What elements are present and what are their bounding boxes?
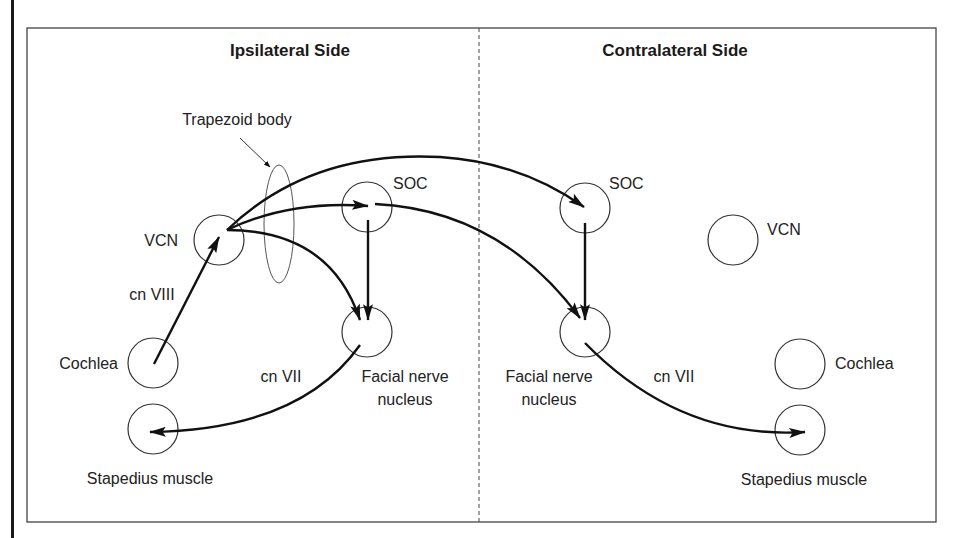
contra-cochlea-label: Cochlea — [835, 355, 894, 372]
vcn-to-ipsi-facial-arrow — [227, 230, 360, 320]
vcn-to-ipsi-soc-arrow — [227, 205, 368, 230]
trapezoid-body-ellipse — [264, 165, 294, 283]
ipsi-cn-vii-arrow — [150, 345, 360, 432]
diagram-frame — [27, 28, 936, 522]
cn-viii-label: cn VIII — [129, 286, 174, 303]
ipsi-cn-vii-label: cn VII — [261, 368, 302, 385]
contra-stapedius-node — [775, 405, 825, 455]
contra-facial-label-1: Facial nerve — [505, 368, 592, 385]
ipsi-facial-label-2: nucleus — [377, 391, 432, 408]
contra-vcn-label: VCN — [767, 221, 801, 238]
ipsi-facial-label-1: Facial nerve — [361, 368, 448, 385]
ipsi-stapedius-node — [128, 404, 178, 454]
trapezoid-pointer — [240, 138, 270, 167]
ipsi-soc-label: SOC — [393, 175, 428, 192]
trapezoid-body-label: Trapezoid body — [182, 111, 292, 128]
ipsi-cochlea-label: Cochlea — [59, 355, 118, 372]
contra-cn-vii-label: cn VII — [654, 368, 695, 385]
contralateral-title: Contralateral Side — [602, 41, 748, 60]
ipsi-stapedius-label: Stapedius muscle — [87, 470, 213, 487]
ipsilateral-title: Ipsilateral Side — [230, 41, 350, 60]
contra-soc-label: SOC — [609, 175, 644, 192]
contra-vcn-node — [708, 215, 758, 265]
ipsi-cochlea-node — [128, 338, 178, 388]
contra-stapedius-label: Stapedius muscle — [741, 471, 867, 488]
ipsi-vcn-label: VCN — [144, 232, 178, 249]
contra-facial-label-2: nucleus — [521, 391, 576, 408]
contra-cochlea-node — [775, 339, 825, 389]
contra-cn-vii-arrow — [585, 343, 805, 433]
vcn-to-contra-soc-arrow — [227, 156, 584, 230]
ipsi-soc-to-contra-facial-arrow — [375, 204, 580, 318]
reflex-diagram: Ipsilateral Side Contralateral Side Trap… — [0, 0, 958, 538]
